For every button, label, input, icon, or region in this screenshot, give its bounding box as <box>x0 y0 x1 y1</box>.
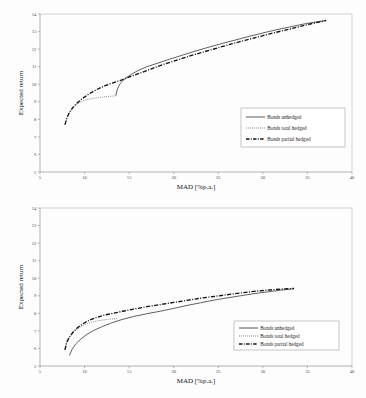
legend-label-2: Bonds partial hedged <box>260 341 304 347</box>
y-tick-label: 14 <box>32 12 37 17</box>
chart-svg-bottom: 567891011121314510152025303540MAD [%p.a.… <box>0 196 366 398</box>
legend-label-0: Bonds unhedged <box>267 114 302 120</box>
legend-label-2: Bonds partial hedged <box>267 136 311 142</box>
y-tick-label: 11 <box>32 64 37 69</box>
x-tick-label: 30 <box>261 369 266 374</box>
y-tick-label: 5 <box>34 170 37 175</box>
y-tick-label: 6 <box>34 152 37 157</box>
y-tick-label: 9 <box>34 99 37 104</box>
y-tick-label: 9 <box>34 293 37 298</box>
x-tick-label: 10 <box>82 369 87 374</box>
y-tick-label: 7 <box>34 329 37 334</box>
y-tick-label: 5 <box>34 364 37 369</box>
x-tick-label: 20 <box>171 369 176 374</box>
x-tick-label: 10 <box>82 175 87 180</box>
y-tick-label: 11 <box>32 258 37 263</box>
chart-panel-top: 567891011121314510152025303540MAD [%p.a.… <box>0 0 366 196</box>
y-tick-label: 13 <box>32 29 37 34</box>
chart-svg-top: 567891011121314510152025303540MAD [%p.a.… <box>0 0 366 196</box>
y-tick-label: 12 <box>32 241 37 246</box>
legend-label-0: Bonds unhedged <box>260 325 295 331</box>
x-tick-label: 25 <box>216 369 221 374</box>
x-tick-label: 15 <box>127 369 132 374</box>
y-tick-label: 13 <box>32 223 37 228</box>
x-tick-label: 25 <box>216 175 221 180</box>
y-tick-label: 14 <box>32 206 37 211</box>
x-tick-label: 30 <box>261 175 266 180</box>
x-tick-label: 5 <box>39 175 42 180</box>
series-line-1 <box>65 96 117 125</box>
y-tick-label: 8 <box>34 311 37 316</box>
series-line-1 <box>65 319 118 350</box>
y-tick-label: 7 <box>34 135 37 140</box>
legend-label-1: Bonds total hedged <box>260 333 300 339</box>
y-tick-label: 6 <box>34 346 37 351</box>
y-tick-label: 12 <box>32 47 37 52</box>
x-tick-label: 15 <box>127 175 132 180</box>
y-tick-label: 10 <box>32 82 37 87</box>
x-tick-label: 20 <box>171 175 176 180</box>
x-tick-label: 35 <box>305 369 310 374</box>
chart-panel-bottom: 567891011121314510152025303540MAD [%p.a.… <box>0 196 366 398</box>
series-line-0 <box>116 21 326 96</box>
x-axis-title: MAD [%p.a.] <box>177 183 216 191</box>
y-tick-label: 8 <box>34 117 37 122</box>
y-tick-label: 10 <box>32 276 37 281</box>
x-tick-label: 35 <box>305 175 310 180</box>
x-axis-title: MAD [%p.a.] <box>177 377 216 385</box>
y-axis-title: Expected return <box>17 264 25 309</box>
x-tick-label: 40 <box>350 369 355 374</box>
legend-label-1: Bonds total hedged <box>267 125 307 131</box>
x-tick-label: 40 <box>350 175 355 180</box>
x-tick-label: 5 <box>39 369 42 374</box>
y-axis-title: Expected return <box>17 70 25 115</box>
chart-page: 567891011121314510152025303540MAD [%p.a.… <box>0 0 366 398</box>
